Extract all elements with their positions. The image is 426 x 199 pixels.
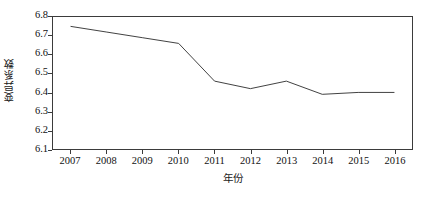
y-axis-tick-label: 6.4	[20, 87, 48, 98]
y-axis-tick-label: 6.5	[20, 67, 48, 78]
y-axis-tick-mark	[48, 93, 52, 94]
x-axis-tick-mark	[142, 150, 143, 154]
line-chart: 变异系数 6.16.26.36.46.56.66.76.8 2007200820…	[0, 0, 426, 199]
x-axis-tick-mark	[323, 150, 324, 154]
x-axis-tick-mark	[70, 150, 71, 154]
y-axis-tick-label: 6.6	[20, 48, 48, 59]
x-axis-tick-label: 2016	[373, 156, 417, 167]
y-axis-title-label: 变异系数	[5, 58, 16, 102]
y-axis-tick-label: 6.1	[20, 144, 48, 155]
plot-area	[52, 16, 413, 150]
y-axis-tick-mark	[48, 150, 52, 151]
data-line-svg	[53, 17, 412, 149]
y-axis-tick-mark	[48, 35, 52, 36]
x-axis-tick-mark	[178, 150, 179, 154]
x-axis-tick-mark	[359, 150, 360, 154]
y-axis-title: 变异系数	[0, 0, 20, 160]
y-axis-tick-label: 6.8	[20, 10, 48, 21]
y-axis-tick-mark	[48, 131, 52, 132]
x-axis-tick-mark	[287, 150, 288, 154]
y-axis-tick-mark	[48, 54, 52, 55]
x-axis-tick-mark	[106, 150, 107, 154]
y-axis-tick-label: 6.2	[20, 125, 48, 136]
data-series-line	[71, 26, 394, 94]
y-axis-tick-mark	[48, 16, 52, 17]
y-axis-tick-mark	[48, 112, 52, 113]
y-axis-tick-mark	[48, 73, 52, 74]
x-axis-title: 年份	[52, 174, 413, 185]
y-axis-tick-label: 6.7	[20, 29, 48, 40]
y-axis-tick-labels: 6.16.26.36.46.56.66.76.8	[18, 0, 48, 199]
x-axis-tick-mark	[251, 150, 252, 154]
y-axis-tick-label: 6.3	[20, 106, 48, 117]
x-axis-tick-mark	[214, 150, 215, 154]
x-axis-tick-mark	[395, 150, 396, 154]
